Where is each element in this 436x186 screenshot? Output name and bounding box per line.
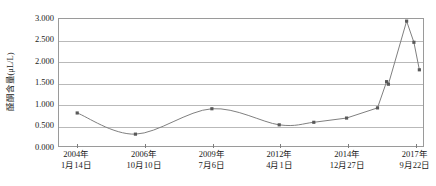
plot-area xyxy=(58,18,424,147)
data-point-marker xyxy=(405,20,408,23)
data-point-marker xyxy=(412,41,415,44)
data-point-marker xyxy=(376,106,379,109)
y-axis-tick-label: 2.000 xyxy=(8,57,54,66)
x-axis-tick-label-day: 9月22日 xyxy=(375,160,436,171)
y-axis-tick-label: 3.000 xyxy=(8,14,54,23)
data-point-marker xyxy=(312,121,315,124)
data-point-marker xyxy=(210,107,213,110)
x-axis-tick-labels: 2004年1月14日2006年10月10日2009年7月6日2012年4月1日2… xyxy=(0,149,436,183)
data-point-marker xyxy=(278,123,281,126)
data-point-marker xyxy=(345,116,348,119)
y-axis-tick-label: 1.500 xyxy=(8,78,54,87)
data-point-marker xyxy=(76,111,79,114)
data-point-marker xyxy=(134,133,137,136)
y-axis-tick-label: 0.500 xyxy=(8,121,54,130)
x-axis-tick-label: 2017年9月22日 xyxy=(375,149,436,172)
data-point-marker xyxy=(418,68,421,71)
series-line xyxy=(77,21,419,134)
data-series-line xyxy=(59,19,423,146)
chart-container: 醛酮含量(μL/L) 3.0002.5002.0001.5001.0000.50… xyxy=(0,0,436,186)
x-axis-tick-label-year: 2017年 xyxy=(375,149,436,160)
data-point-marker xyxy=(387,83,390,86)
y-axis-tick-label: 1.000 xyxy=(8,100,54,109)
y-axis-tick-label: 2.500 xyxy=(8,35,54,44)
